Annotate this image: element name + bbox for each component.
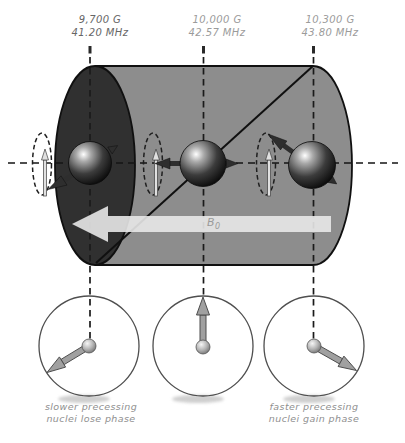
caption-right-line1: faster precessing: [269, 401, 359, 413]
tick-middle: [202, 46, 205, 54]
gauss-value-middle: 10,000 G: [189, 14, 246, 27]
nucleus-sphere-middle: [180, 141, 226, 187]
field-frequency-label-right: 10,300 G 43.80 MHz: [302, 14, 359, 39]
frequency-value-left: 41.20 MHz: [72, 27, 129, 40]
tick-left: [89, 46, 92, 54]
diagram-canvas: [0, 0, 405, 443]
gauss-value-right: 10,300 G: [302, 14, 359, 27]
caption-slower-precessing: slower precessing nuclei lose phase: [45, 401, 137, 425]
b0-field-label: B0: [207, 216, 221, 231]
nucleus-sphere-left: [69, 142, 112, 185]
frequency-value-right: 43.80 MHz: [302, 27, 359, 40]
clock-center-sphere-left: [82, 339, 96, 353]
b0-symbol: B: [207, 216, 215, 229]
tick-right: [312, 46, 315, 54]
nmr-field-gradient-diagram: 9,700 G 41.20 MHz 10,000 G 42.57 MHz 10,…: [0, 0, 405, 443]
phase-clock-left: [39, 296, 139, 396]
caption-faster-precessing: faster precessing nuclei gain phase: [269, 401, 359, 425]
clock-center-sphere-right: [307, 339, 321, 353]
nucleus-sphere-right: [289, 142, 336, 189]
precession-ring-left: [33, 133, 52, 195]
phase-clock-middle: [153, 296, 253, 396]
label-tick-marks: [89, 46, 316, 54]
frequency-value-middle: 42.57 MHz: [189, 27, 246, 40]
field-frequency-label-left: 9,700 G 41.20 MHz: [72, 14, 129, 39]
gauss-value-left: 9,700 G: [72, 14, 129, 27]
phase-clocks: [39, 296, 364, 403]
caption-left-line2: nuclei lose phase: [45, 413, 137, 425]
caption-left-line1: slower precessing: [45, 401, 137, 413]
phase-arrow-middle: [197, 297, 210, 347]
caption-right-line2: nuclei gain phase: [269, 413, 359, 425]
field-frequency-label-middle: 10,000 G 42.57 MHz: [189, 14, 246, 39]
clock-center-sphere-middle: [196, 340, 210, 354]
b0-subscript: 0: [215, 222, 221, 231]
